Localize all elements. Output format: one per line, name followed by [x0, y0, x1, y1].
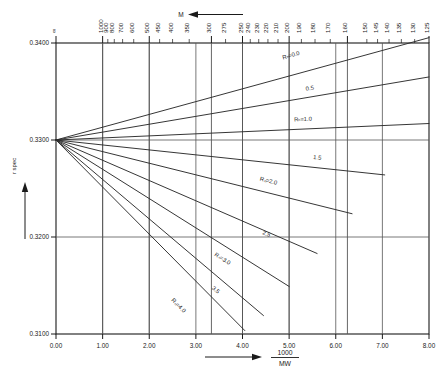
x-axis-tick-label: 5.00 [283, 342, 296, 349]
top-axis-tick-label: 150 [361, 22, 368, 33]
top-axis-tick-label: 160 [341, 22, 348, 33]
x-axis-tick-label: 2.00 [143, 342, 156, 349]
top-axis-tick-label: 400 [167, 22, 174, 33]
series-label: Rₙ=1.0 [294, 116, 312, 123]
x-axis-arrow-head-right-icon [252, 354, 262, 360]
top-axis-tick-label: 130 [409, 22, 416, 33]
top-axis-tick-label: 180 [309, 22, 316, 33]
x-axis-title-denominator: MW [279, 360, 292, 367]
top-axis-tick-label: 190 [295, 22, 302, 33]
x-axis-tick-label: 8.00 [423, 342, 436, 349]
y-axis-tick-label: 0.3400 [29, 39, 49, 46]
top-axis-tick-label: 275 [220, 22, 227, 33]
top-axis-tick-label: 300 [205, 22, 212, 33]
top-axis-tick-label: 450 [154, 22, 161, 33]
nomograph-chart: ∞100090080070060050045040035030027525024… [0, 0, 448, 375]
x-axis-tick-label: 3.00 [190, 342, 203, 349]
top-axis-tick-label: 125 [423, 22, 430, 33]
top-axis-tick-label: 700 [117, 22, 124, 33]
top-axis-tick-label: 200 [283, 22, 290, 33]
top-axis-title: M [178, 11, 183, 18]
top-axis-tick-label: 500 [143, 22, 150, 33]
top-axis-tick-label: 350 [183, 22, 190, 33]
y-axis-tick-label: 0.3300 [29, 136, 49, 143]
y-axis-title: r spec [11, 158, 17, 174]
top-axis-tick-label: 170 [324, 22, 331, 33]
top-axis-tick-label: 240 [244, 22, 251, 33]
y-axis-tick-label: 0.3100 [29, 330, 49, 337]
top-axis-tick-label: 135 [395, 22, 402, 33]
x-axis-tick-label: 4.00 [236, 342, 249, 349]
top-axis-tick-label: 800 [108, 22, 115, 33]
x-axis-tick-label: 0.00 [50, 342, 63, 349]
chart-root: ∞100090080070060050045040035030027525024… [0, 0, 448, 375]
x-axis-tick-label: 7.00 [376, 342, 389, 349]
top-axis-tick-label: 250 [237, 22, 244, 33]
top-axis-tick-label: 145 [372, 22, 379, 33]
top-axis-tick-label: ∞ [50, 29, 57, 33]
series-label: 1.5 [313, 154, 322, 161]
x-axis-tick-label: 1.00 [96, 342, 109, 349]
top-axis-tick-label: 140 [383, 22, 390, 33]
top-axis-tick-label: 600 [128, 22, 135, 33]
top-axis-tick-label: 220 [262, 22, 269, 33]
y-axis-arrow-head-up-icon [22, 182, 28, 192]
top-axis-arrow-head-left-icon [188, 11, 198, 17]
top-axis-tick-label: 230 [253, 22, 260, 33]
y-axis-tick-label: 0.3200 [29, 233, 49, 240]
x-axis-title-numerator: 1000 [277, 349, 292, 356]
top-axis-tick-label: 210 [272, 22, 279, 33]
x-axis-tick-label: 6.00 [330, 342, 343, 349]
